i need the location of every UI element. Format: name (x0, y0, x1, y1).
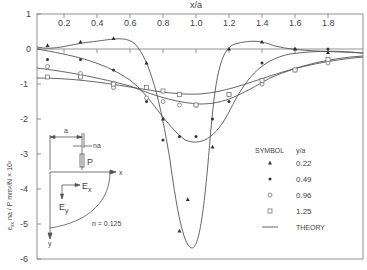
theory-curve-0.96 (37, 56, 363, 104)
y-tick-label: 1 (26, 9, 31, 19)
svg-text:na: na (93, 142, 101, 149)
y-tick-label: -1 (20, 79, 28, 89)
theory-curve-0.22 (37, 39, 363, 248)
svg-text:Ex: Ex (82, 181, 92, 193)
svg-text:x: x (119, 169, 123, 176)
legend-header-symbol: SYMBOL (255, 147, 284, 154)
x-tick-label: 1.4 (256, 18, 269, 28)
x-axis-title: x/a (190, 0, 202, 10)
x-tick-label: 1.6 (289, 18, 302, 28)
x-tick-label: 0.8 (157, 18, 170, 28)
y-tick-label: -3 (20, 149, 28, 159)
y-tick-label: 0 (26, 44, 31, 54)
x-tick-label: 0.2 (58, 18, 71, 28)
legend-entry-label: 0.96 (296, 191, 312, 200)
y-axis-title: εxx na / P mm²/N × 10² (6, 160, 15, 230)
x-tick-label: 0.4 (91, 18, 104, 28)
legend: SYMBOL y/a 0.220.490.961.25THEORY (255, 147, 325, 231)
legend-entry-label: 1.25 (296, 207, 312, 216)
theory-curves (37, 39, 363, 248)
svg-text:n = 0.125: n = 0.125 (92, 220, 121, 227)
x-tick-label: 1.0 (190, 18, 203, 28)
inset-labels: a na P x y Ex Ey n = 0.125 (48, 127, 123, 248)
y-tick-label: -4 (20, 184, 28, 194)
svg-text:Ey: Ey (59, 202, 69, 215)
svg-text:a: a (64, 127, 68, 134)
legend-entry-label: 0.49 (296, 175, 312, 184)
legend-header-param: y/a (296, 147, 305, 155)
legend-entry-label: 0.22 (296, 159, 312, 168)
x-tick-label: 1.8 (322, 18, 335, 28)
x-tick-label: 0.6 (124, 18, 137, 28)
svg-text:P: P (87, 157, 93, 167)
y-tick-label: -6 (20, 254, 28, 264)
x-axis-ticks: 0.20.40.60.81.01.21.41.61.8 (58, 14, 335, 53)
strain-distribution-chart: 0.20.40.60.81.01.21.41.61.8 10-1-2-3-4-5… (0, 0, 367, 270)
x-tick-label: 1.2 (223, 18, 236, 28)
legend-entry-label: THEORY (296, 224, 325, 231)
y-tick-label: -2 (20, 114, 28, 124)
data-markers (46, 36, 331, 232)
svg-text:y: y (48, 240, 52, 248)
y-tick-label: -5 (20, 219, 28, 229)
